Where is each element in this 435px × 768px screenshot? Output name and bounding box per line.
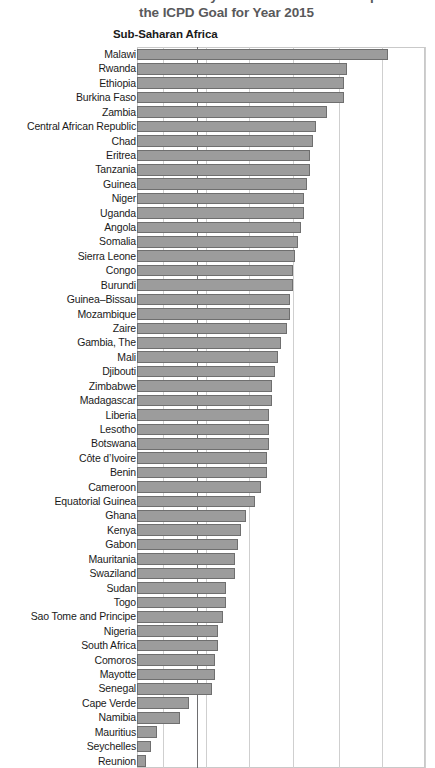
bar xyxy=(137,568,235,580)
bar xyxy=(137,92,344,104)
bar xyxy=(137,135,313,147)
bar-chart: MalawiRwandaEthiopiaBurkina FasoZambiaCe… xyxy=(0,47,435,768)
bar xyxy=(137,654,215,666)
bar xyxy=(137,582,226,594)
bar xyxy=(137,77,344,89)
bar xyxy=(137,49,388,61)
bar xyxy=(137,510,246,522)
bar xyxy=(137,279,293,291)
chart-title: Percent of Births Attended by Trained Pe… xyxy=(0,0,435,21)
bar xyxy=(137,106,327,118)
bar xyxy=(137,553,235,565)
bar xyxy=(137,597,226,609)
bar xyxy=(137,755,146,767)
bar xyxy=(137,438,269,450)
bar xyxy=(137,207,304,219)
bar xyxy=(137,308,290,320)
region-heading: Sub-Saharan Africa xyxy=(113,28,218,40)
bar xyxy=(137,323,287,335)
bar xyxy=(137,337,281,349)
chart-title-line-2: the ICPD Goal for Year 2015 xyxy=(0,4,435,21)
bar xyxy=(137,380,272,392)
bar xyxy=(137,250,295,262)
bar xyxy=(137,467,267,479)
bar xyxy=(137,236,298,248)
country-label: Reunion xyxy=(98,754,136,768)
bar xyxy=(137,726,157,738)
bar xyxy=(137,178,307,190)
bar xyxy=(137,524,241,536)
chart-rows: MalawiRwandaEthiopiaBurkina FasoZambiaCe… xyxy=(0,47,435,768)
bar xyxy=(137,496,255,508)
bar xyxy=(137,683,212,695)
bar xyxy=(137,222,301,234)
bar xyxy=(137,164,310,176)
bar xyxy=(137,351,278,363)
bar xyxy=(137,697,189,709)
bar xyxy=(137,669,215,681)
bar xyxy=(137,395,272,407)
bar xyxy=(137,150,310,162)
bar xyxy=(137,539,238,551)
bar xyxy=(137,741,151,753)
bar xyxy=(137,409,269,421)
bar xyxy=(137,424,269,436)
bar xyxy=(137,481,261,493)
bar xyxy=(137,625,218,637)
bar xyxy=(137,294,290,306)
bar xyxy=(137,611,223,623)
bar xyxy=(137,265,293,277)
bar xyxy=(137,712,180,724)
bar xyxy=(137,121,316,133)
bar xyxy=(137,193,304,205)
chart-row: Reunion xyxy=(0,754,435,768)
bar xyxy=(137,366,275,378)
bar xyxy=(137,63,347,75)
bar xyxy=(137,452,267,464)
bar xyxy=(137,640,218,652)
